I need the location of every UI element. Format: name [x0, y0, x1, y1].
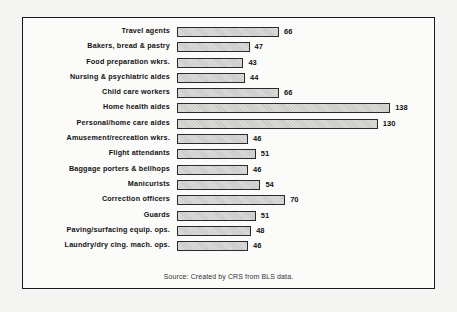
bar-row: Paving/surfacing equip. ops.48: [23, 224, 434, 239]
value-label: 138: [395, 103, 408, 112]
bar-row: Personal/home care aides130: [23, 117, 434, 132]
bar: [177, 88, 279, 98]
bar-row: Flight attendants51: [23, 147, 434, 162]
bar-row: Correction officers70: [23, 193, 434, 208]
bar-row: Home health aides138: [23, 101, 434, 116]
bar-row: Manicurists54: [23, 178, 434, 193]
bar-row: Guards51: [23, 209, 434, 224]
value-label: 66: [284, 88, 292, 97]
category-label: Personal/home care aides: [20, 118, 170, 127]
bar: [177, 103, 390, 113]
category-label: Nursing & psychiatric aides: [20, 72, 170, 81]
category-label: Manicurists: [20, 179, 170, 188]
value-label: 51: [261, 149, 269, 158]
bar: [177, 195, 285, 205]
bar-row: Laundry/dry clng. mach. ops.46: [23, 239, 434, 254]
bar-row: Food preparation wkrs.43: [23, 56, 434, 71]
value-label: 54: [265, 180, 273, 189]
value-label: 47: [255, 42, 263, 51]
category-label: Bakers, bread & pastry: [20, 41, 170, 50]
bar-row: Amusement/recreation wkrs.46: [23, 132, 434, 147]
bar-row: Child care workers66: [23, 86, 434, 101]
value-label: 46: [253, 241, 261, 250]
value-label: 48: [256, 226, 264, 235]
category-label: Correction officers: [20, 194, 170, 203]
bar-row: Nursing & psychiatric aides44: [23, 71, 434, 86]
bar: [177, 165, 248, 175]
category-label: Paving/surfacing equip. ops.: [20, 225, 170, 234]
category-label: Amusement/recreation wkrs.: [20, 133, 170, 142]
category-label: Flight attendants: [20, 148, 170, 157]
bar: [177, 27, 279, 37]
value-label: 70: [290, 195, 298, 204]
value-label: 46: [253, 134, 261, 143]
category-label: Baggage porters & bellhops: [20, 164, 170, 173]
bar: [177, 134, 248, 144]
source-note: Source: Created by CRS from BLS data.: [23, 273, 434, 280]
category-label: Child care workers: [20, 87, 170, 96]
value-label: 43: [248, 58, 256, 67]
bar-row: Travel agents66: [23, 25, 434, 40]
bar: [177, 211, 256, 221]
bar: [177, 149, 256, 159]
chart-frame: Travel agents66Bakers, bread & pastry47F…: [22, 17, 435, 289]
bar: [177, 58, 243, 68]
value-label: 51: [261, 211, 269, 220]
bar-rows: Travel agents66Bakers, bread & pastry47F…: [23, 25, 434, 254]
bar: [177, 241, 248, 251]
bar: [177, 180, 260, 190]
bar-row: Bakers, bread & pastry47: [23, 40, 434, 55]
value-label: 46: [253, 165, 261, 174]
bar: [177, 226, 251, 236]
bar: [177, 73, 245, 83]
category-label: Travel agents: [20, 26, 170, 35]
category-label: Food preparation wkrs.: [20, 57, 170, 66]
bar-row: Baggage porters & bellhops46: [23, 163, 434, 178]
category-label: Home health aides: [20, 102, 170, 111]
category-label: Laundry/dry clng. mach. ops.: [20, 240, 170, 249]
category-label: Guards: [20, 210, 170, 219]
bar: [177, 42, 250, 52]
value-label: 44: [250, 73, 258, 82]
value-label: 130: [383, 119, 396, 128]
bar: [177, 119, 378, 129]
value-label: 66: [284, 27, 292, 36]
